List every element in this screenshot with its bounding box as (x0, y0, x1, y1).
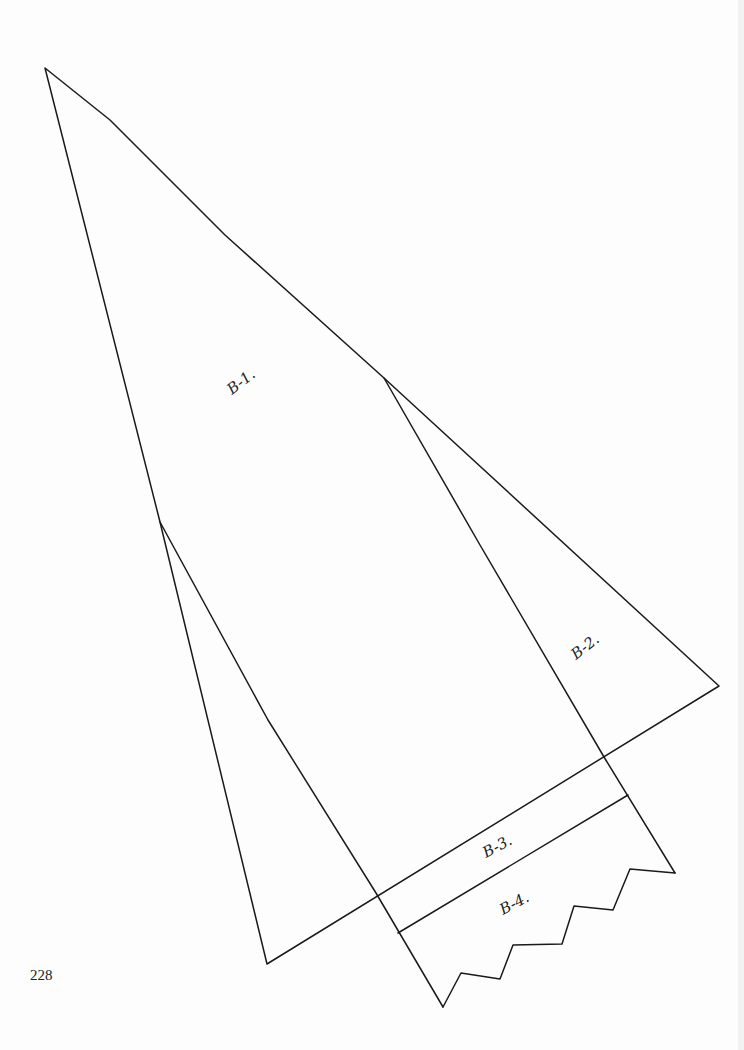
label-b3: B-3. (479, 831, 515, 862)
outer-triangle-outline (45, 68, 719, 964)
pattern-page: B-1. B-2. B-3. B-4. 228 (0, 0, 744, 1050)
b4-zigzag-edge (443, 869, 675, 1007)
b2-divider-line (384, 378, 675, 873)
label-b4: B-4. (496, 888, 532, 919)
label-b1: B-1. (223, 365, 259, 399)
label-b2: B-2. (567, 630, 603, 664)
page-number: 228 (30, 967, 53, 984)
b3-left-line (160, 522, 443, 1007)
pattern-diagram: B-1. B-2. B-3. B-4. (0, 0, 744, 1050)
